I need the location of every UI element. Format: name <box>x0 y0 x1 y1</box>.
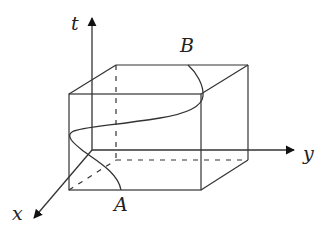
point-b-label: B <box>179 34 194 56</box>
box-axes-diagram: t y x B A <box>0 0 334 235</box>
hidden-edges <box>69 65 248 190</box>
x-axis-label: x <box>12 202 23 224</box>
box-edges <box>69 65 248 190</box>
bottom-right-depth-edge <box>201 160 248 190</box>
point-a-label: A <box>112 193 128 215</box>
hidden-edge-bottom-left-depth <box>69 160 116 190</box>
y-axis-label: y <box>302 142 314 164</box>
x-axis <box>34 150 92 218</box>
t-axis-label: t <box>71 12 79 34</box>
curve-a-to-b <box>70 65 203 190</box>
front-face <box>69 94 201 190</box>
top-right-depth-edge <box>201 65 248 94</box>
